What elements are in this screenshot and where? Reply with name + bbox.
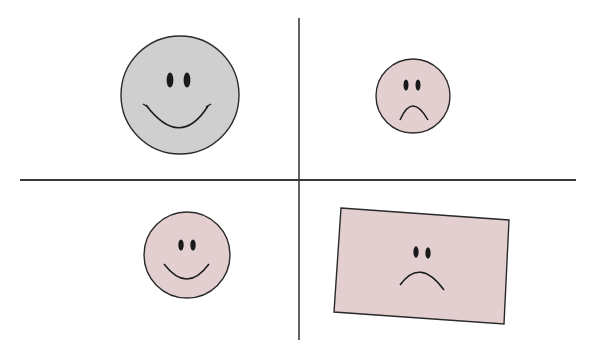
quadrant-diagram [0,0,608,358]
pink-frowning-face-icon [376,59,450,133]
pink-smiley-face-icon [144,212,230,298]
gray-smiley-face-icon [121,36,239,154]
pink-frowning-rectangle-icon [334,208,509,324]
